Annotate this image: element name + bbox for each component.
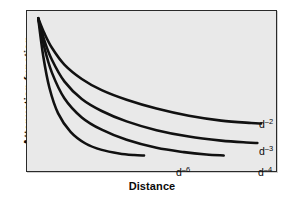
curve-d–4 — [38, 18, 224, 155]
x-axis-label: Distance — [26, 180, 278, 192]
figure: Attenuation function d–2 d–3 d–4 d–6 Dis… — [0, 0, 290, 203]
curve-label-d-minus-3: d–3 — [259, 146, 273, 157]
curve-group — [38, 18, 261, 155]
plot-area: d–2 d–3 d–4 d–6 — [26, 10, 277, 172]
curves-svg — [27, 11, 276, 171]
curve-label-d4-exponent: –4 — [264, 165, 272, 174]
curve-label-d-minus-6: d–6 — [176, 167, 190, 178]
curve-label-d-minus-2: d–2 — [259, 119, 273, 130]
curve-label-d6-exponent: –6 — [182, 165, 190, 174]
curve-label-d2-exponent: –2 — [265, 117, 273, 126]
curve-d–3 — [38, 18, 257, 143]
curve-label-d3-exponent: –3 — [265, 144, 273, 153]
curve-label-d-minus-4: d–4 — [258, 167, 272, 178]
curve-d–6 — [38, 18, 144, 155]
